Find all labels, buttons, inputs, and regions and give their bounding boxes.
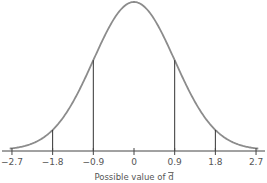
x-tick-label: 0 [131,157,137,167]
x-axis-tick-labels: −2.7−1.8−0.900.91.82.7 [1,157,263,167]
d-bar-symbol: d [168,172,173,182]
sd-vertical-lines [53,60,216,151]
normal-curve-chart: −2.7−1.8−0.900.91.82.7 Possible value of… [0,0,267,183]
x-tick-label: −2.7 [1,157,23,167]
density-curve [10,2,259,149]
x-tick-label: 0.9 [168,157,183,167]
x-tick-label: −1.8 [42,157,64,167]
x-tick-label: −0.9 [82,157,104,167]
x-tick-label: 2.7 [249,157,263,167]
x-axis-label: Possible value of d [94,172,173,182]
x-tick-label: 1.8 [208,157,223,167]
